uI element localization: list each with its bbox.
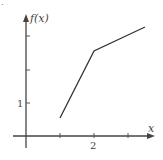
corner-mark: . [1, 0, 4, 7]
x-axis-label: x [148, 122, 155, 135]
y-axis-arrow-icon [23, 14, 29, 22]
x-tick-label: 2 [90, 140, 96, 151]
data-line [60, 27, 145, 118]
y-axis-label: f(x) [29, 12, 49, 25]
y-tick-label: 1 [17, 98, 23, 109]
chart: f(x) x 2 1 . [0, 0, 163, 160]
